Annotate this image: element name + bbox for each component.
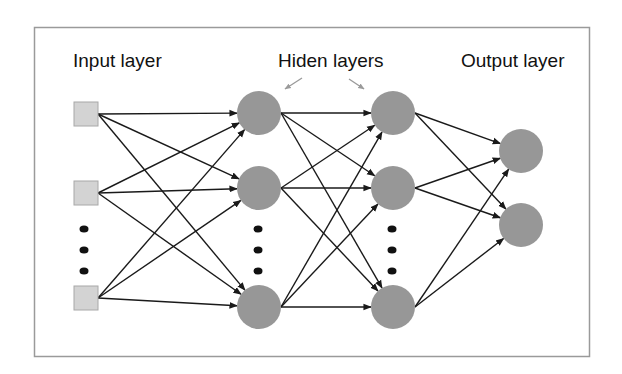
connection-edge bbox=[415, 238, 504, 307]
hidden-arrow-left-icon bbox=[285, 78, 302, 89]
hidden-1-node bbox=[237, 91, 281, 135]
input-node bbox=[74, 286, 98, 310]
connection-edge bbox=[415, 113, 500, 144]
neural-network-diagram: Input layer Hiden layers Output layer bbox=[0, 0, 622, 374]
connection-edge bbox=[281, 132, 382, 307]
connection-edge bbox=[98, 130, 245, 298]
hidden-2-node bbox=[371, 285, 415, 329]
connection-edge bbox=[98, 113, 237, 114]
ellipsis-dot-icon bbox=[254, 226, 263, 233]
input-node bbox=[74, 181, 98, 205]
hidden-layers-label: Hiden layers bbox=[278, 50, 384, 72]
output-node bbox=[499, 203, 543, 247]
connection-edge bbox=[98, 189, 237, 193]
input-layer-label: Input layer bbox=[73, 50, 162, 72]
ellipsis-dot-icon bbox=[254, 268, 263, 275]
hidden-arrow-right-icon bbox=[349, 79, 364, 89]
connection-edge bbox=[415, 169, 509, 307]
connection-edge bbox=[98, 298, 237, 306]
connection-edge bbox=[415, 158, 500, 188]
hidden-1-node bbox=[237, 285, 281, 329]
ellipsis-dot-icon bbox=[388, 226, 397, 233]
connection-edge bbox=[281, 125, 375, 188]
input-node bbox=[74, 102, 98, 126]
connection-edge bbox=[281, 113, 382, 288]
output-node bbox=[499, 129, 543, 173]
connection-edge bbox=[98, 123, 239, 193]
ellipsis-dot-icon bbox=[254, 247, 263, 254]
output-layer-label: Output layer bbox=[461, 50, 565, 72]
connection-edge bbox=[281, 188, 378, 291]
hidden-2-node bbox=[371, 91, 415, 135]
ellipsis-dot-icon bbox=[80, 247, 89, 254]
ellipsis-dot-icon bbox=[80, 268, 89, 275]
ellipsis-dot-icon bbox=[80, 226, 89, 233]
nodes bbox=[74, 91, 543, 329]
connection-edge bbox=[281, 113, 375, 176]
connection-edge bbox=[415, 188, 500, 218]
ellipsis-dot-icon bbox=[388, 247, 397, 254]
hidden-1-node bbox=[237, 166, 281, 210]
ellipsis-dot-icon bbox=[388, 268, 397, 275]
connection-edge bbox=[98, 193, 241, 294]
connection-edge bbox=[98, 114, 245, 290]
connections bbox=[98, 113, 509, 307]
hidden-2-node bbox=[371, 166, 415, 210]
connection-edge bbox=[98, 114, 239, 179]
